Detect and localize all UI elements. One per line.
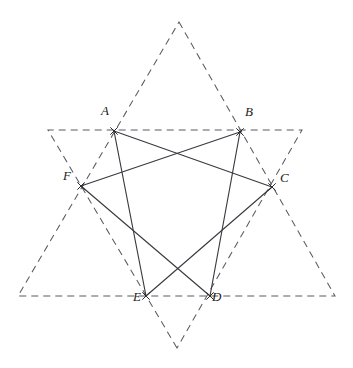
- downward-triangle-outline: [48, 130, 302, 348]
- solid-edge-C-E: [146, 187, 272, 296]
- vertex-label-C: C: [280, 171, 289, 184]
- vertex-marker-C: [269, 184, 276, 191]
- solid-edge-B-F: [81, 132, 240, 186]
- solid-edge-B-D: [210, 132, 240, 296]
- solid-edge-A-C: [114, 131, 272, 187]
- vertex-label-B: B: [245, 105, 253, 118]
- solid-edge-A-E: [114, 131, 146, 296]
- vertex-label-F: F: [63, 169, 71, 182]
- vertex-label-E: E: [133, 290, 141, 303]
- solid-edge-F-D: [81, 186, 210, 296]
- solid-edge-group: [81, 131, 272, 296]
- vertex-label-D: D: [212, 290, 221, 303]
- figure-canvas: [0, 0, 353, 368]
- dashed-triangle-downward: [48, 130, 302, 348]
- vertex-label-A: A: [101, 104, 109, 117]
- geometry-figure: ABCDEF: [0, 0, 353, 368]
